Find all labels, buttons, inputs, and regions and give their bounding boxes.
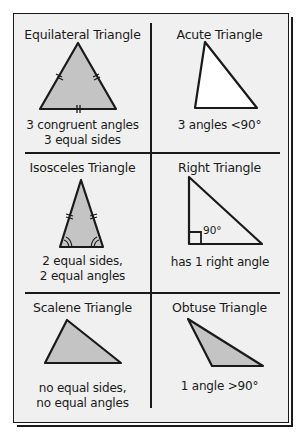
obtuse-triangle-icon <box>0 0 303 435</box>
obtuse-desc: 1 angle >90° <box>152 379 287 394</box>
